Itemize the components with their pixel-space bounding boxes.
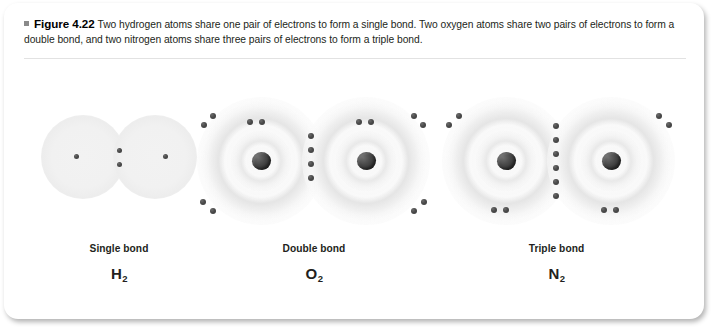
nitrogen-left-unshared-electron-1 — [456, 113, 462, 119]
oxygen-right-unshared-electron-5 — [421, 199, 427, 205]
hydrogen-formula-subscript: 2 — [122, 273, 127, 284]
caption-divider — [24, 58, 686, 59]
oxygen-right-unshared-electron-2 — [420, 122, 426, 128]
hydrogen-formula-symbol: H — [111, 265, 122, 282]
nitrogen-shared-electron-5 — [553, 179, 559, 185]
nitrogen-left-nucleus — [497, 152, 516, 170]
nitrogen-right-unshared-electron-3 — [601, 207, 607, 213]
oxygen-left-unshared-electron-4 — [259, 119, 265, 125]
nitrogen-bond-label: Triple bond — [429, 243, 684, 254]
oxygen-right-unshared-electron-4 — [368, 119, 374, 125]
oxygen-bond-label: Double bond — [189, 243, 439, 254]
oxygen-shared-electron-1 — [308, 133, 314, 139]
figure-caption-text: Two hydrogen atoms share one pair of ele… — [24, 19, 674, 45]
oxygen-shared-electron-4 — [308, 175, 314, 181]
molecule-nitrogen: Triple bond N2 — [429, 61, 684, 319]
nitrogen-shared-electron-3 — [553, 151, 559, 157]
molecule-oxygen: Double bond O2 — [189, 61, 439, 319]
oxygen-left-unshared-electron-6 — [210, 208, 216, 214]
figure-card: Figure 4.22 Two hydrogen atoms share one… — [4, 3, 704, 319]
oxygen-formula-subscript: 2 — [318, 273, 323, 284]
nitrogen-left-unshared-electron-3 — [491, 207, 497, 213]
oxygen-left-nucleus — [252, 152, 271, 170]
nitrogen-left-unshared-electron-4 — [503, 207, 509, 213]
nitrogen-shared-electron-2 — [553, 137, 559, 143]
figure-caption: Figure 4.22 Two hydrogen atoms share one… — [24, 17, 686, 47]
hydrogen-left-unshared-electron — [74, 154, 79, 159]
hydrogen-shared-electron-2 — [117, 162, 122, 167]
nitrogen-shared-electron-1 — [553, 123, 559, 129]
oxygen-formula-symbol: O — [306, 265, 318, 282]
oxygen-left-unshared-electron-3 — [247, 119, 253, 125]
oxygen-shared-electron-2 — [308, 147, 314, 153]
oxygen-left-unshared-electron-2 — [201, 122, 207, 128]
nitrogen-formula: N2 — [429, 265, 684, 282]
hydrogen-right-unshared-electron — [163, 154, 168, 159]
nitrogen-right-unshared-electron-2 — [666, 122, 672, 128]
oxygen-right-unshared-electron-6 — [411, 208, 417, 214]
hydrogen-atom-right — [113, 115, 197, 199]
oxygen-right-unshared-electron-1 — [411, 113, 417, 119]
hydrogen-shared-electron-1 — [117, 148, 122, 153]
nitrogen-shared-electron-4 — [553, 165, 559, 171]
oxygen-left-unshared-electron-1 — [210, 113, 216, 119]
figure-number-label: Figure 4.22 — [34, 17, 95, 30]
oxygen-formula: O2 — [189, 265, 439, 282]
oxygen-left-unshared-electron-5 — [200, 199, 206, 205]
nitrogen-formula-symbol: N — [548, 265, 559, 282]
nitrogen-left-unshared-electron-2 — [446, 122, 452, 128]
nitrogen-right-unshared-electron-1 — [656, 113, 662, 119]
nitrogen-right-nucleus — [602, 152, 621, 170]
oxygen-right-unshared-electron-3 — [356, 119, 362, 125]
square-bullet-icon — [24, 21, 29, 26]
oxygen-shared-electron-3 — [308, 161, 314, 167]
oxygen-right-nucleus — [357, 152, 376, 170]
nitrogen-formula-subscript: 2 — [560, 273, 565, 284]
nitrogen-right-unshared-electron-4 — [613, 207, 619, 213]
molecule-diagram-stage: Single bond H2 — [4, 61, 704, 319]
nitrogen-shared-electron-6 — [553, 193, 559, 199]
